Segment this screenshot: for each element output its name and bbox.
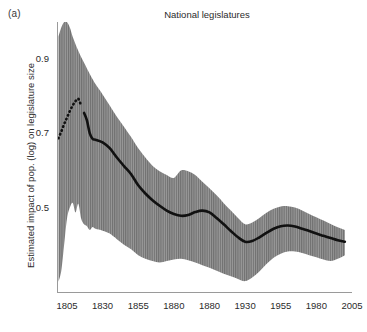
x-axis-tick-label: 1805 bbox=[50, 300, 84, 311]
y-axis-title: Estimated impact of pop. (log) on legisl… bbox=[25, 41, 36, 291]
x-axis-tick-label: 2005 bbox=[335, 300, 367, 311]
confidence-band bbox=[58, 22, 344, 282]
chart-canvas bbox=[57, 22, 352, 293]
x-axis-tick-label: 1855 bbox=[121, 300, 155, 311]
plot-area bbox=[57, 22, 352, 293]
x-axis-tick-label: 1880 bbox=[157, 300, 191, 311]
chart-title: National legislatures bbox=[57, 9, 357, 20]
x-axis-tick-label: 1830 bbox=[86, 300, 120, 311]
y-axis-tick-label: 0.5 bbox=[23, 202, 49, 213]
y-axis-tick-label: 0.7 bbox=[23, 127, 49, 138]
x-axis-tick-label: 1980 bbox=[299, 300, 333, 311]
y-axis-tick-label: 0.9 bbox=[23, 53, 49, 64]
x-axis-tick-label: 1955 bbox=[264, 300, 298, 311]
panel-label: (a) bbox=[8, 8, 21, 19]
x-axis-tick-label: 1930 bbox=[228, 300, 262, 311]
x-axis-tick-label: 1880 bbox=[192, 300, 226, 311]
